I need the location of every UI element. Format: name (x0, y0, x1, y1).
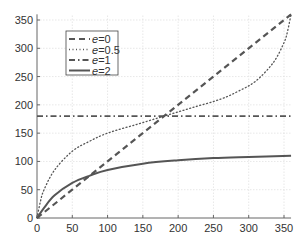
y-tick-label: 100 (15, 155, 33, 167)
x-tick-label: 0 (34, 222, 40, 234)
x-tick-label: 50 (66, 222, 78, 234)
y-tick-label: 200 (15, 99, 33, 111)
line-chart: 050100150200250300350 050100150200250300… (0, 0, 305, 248)
x-tick-label: 150 (134, 222, 152, 234)
y-tick-label: 300 (15, 42, 33, 54)
y-tick-label: 350 (15, 14, 33, 26)
x-tick-label: 100 (98, 222, 116, 234)
series-line-e-2 (37, 156, 291, 218)
y-tick-label: 250 (15, 71, 33, 83)
x-tick-label: 350 (275, 222, 293, 234)
x-tick-label: 250 (204, 222, 222, 234)
y-tick-label: 50 (21, 184, 33, 196)
x-tick-label: 200 (169, 222, 187, 234)
x-tick-label: 300 (240, 222, 258, 234)
y-axis-ticks: 050100150200250300350 (15, 14, 40, 224)
legend-label: e=2 (92, 65, 111, 77)
y-tick-label: 0 (27, 212, 33, 224)
legend: e=0e=0.5e=1e=2 (66, 31, 120, 77)
y-tick-label: 150 (15, 127, 33, 139)
